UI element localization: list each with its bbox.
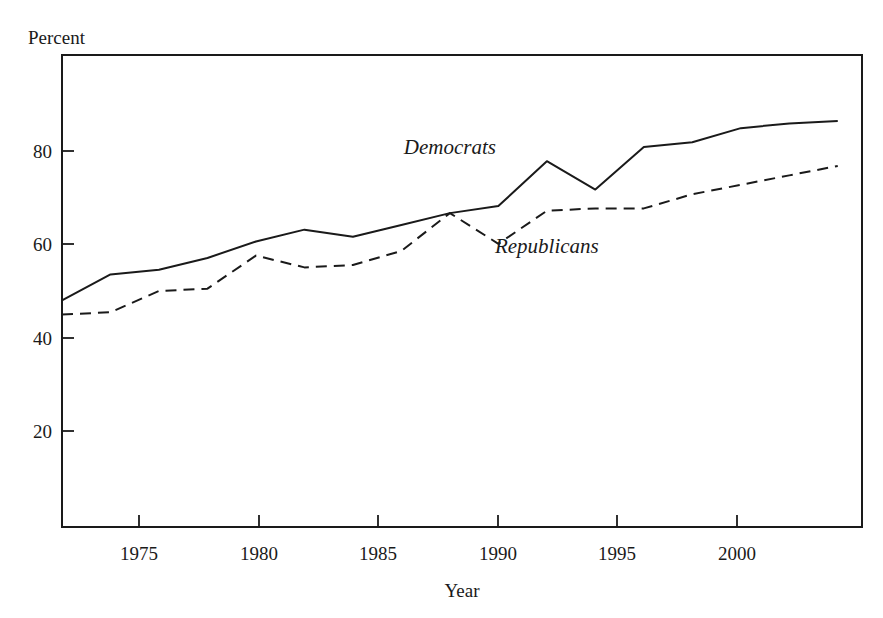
x-axis-tick-labels: 1975 1980 1985 1990 1995 2000	[120, 543, 756, 564]
series-label-democrats: Democrats	[403, 135, 496, 159]
chart-figure: Percent 80 60 40 20 1975	[0, 0, 883, 618]
line-chart: Percent 80 60 40 20 1975	[0, 0, 883, 618]
y-axis-tick-labels: 80 60 40 20	[33, 141, 52, 442]
y-tick-label-80: 80	[33, 141, 52, 162]
x-tick-label-1980: 1980	[240, 543, 278, 564]
x-axis-title: Year	[444, 580, 480, 601]
series-line-republicans	[62, 166, 838, 315]
y-tick-label-60: 60	[33, 234, 52, 255]
y-tick-label-20: 20	[33, 421, 52, 442]
x-tick-label-1995: 1995	[598, 543, 636, 564]
plot-frame	[62, 55, 862, 527]
x-axis-ticks	[139, 515, 737, 527]
x-tick-label-2000: 2000	[718, 543, 756, 564]
y-axis-title: Percent	[28, 27, 86, 48]
series-label-republicans: Republicans	[494, 234, 599, 258]
x-tick-label-1985: 1985	[359, 543, 397, 564]
x-tick-label-1975: 1975	[120, 543, 158, 564]
x-tick-label-1990: 1990	[479, 543, 517, 564]
y-axis-ticks	[62, 151, 74, 431]
y-tick-label-40: 40	[33, 328, 52, 349]
